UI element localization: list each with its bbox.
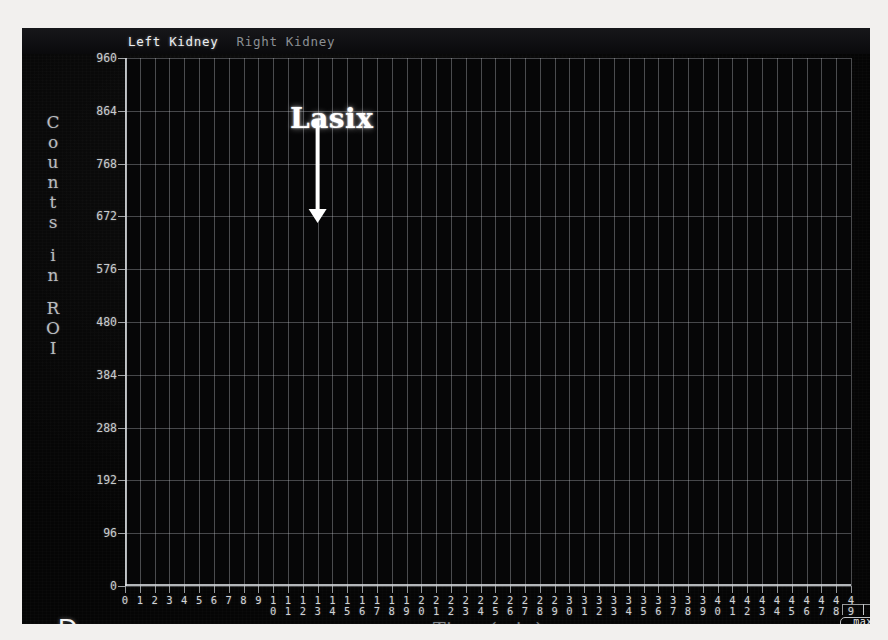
x-axis-tick-mark [629,586,630,593]
x-axis-tick-digit: 8 [389,606,395,617]
x-axis-tick-mark [288,586,289,593]
x-axis-tick-label: 43 [759,595,765,617]
x-axis-tick-digit: 5 [640,606,646,617]
x-axis-tick-label: 33 [611,595,617,617]
y-axis-tick-mark [118,480,125,481]
y-axis-tick-label: 576 [81,262,117,276]
x-axis-tick-digit: 1 [581,606,587,617]
y-axis-title-letter: O [46,312,60,332]
x-axis-tick-mark [318,586,319,593]
y-axis-title-letter: n [48,166,59,186]
x-axis-tick-label: 29 [551,595,557,617]
x-axis-tick-digit: 3 [314,606,320,617]
x-axis-tick-label: 16 [359,595,365,617]
x-axis-tick-digit: 7 [670,606,676,617]
gridline-vertical [851,58,852,586]
y-axis-title: CountsinROI [40,106,66,352]
y-axis-tick-mark [118,586,125,587]
x-axis-tick-label: 9 [255,595,261,606]
x-axis-tick-digit: 1 [433,606,439,617]
y-axis-tick-label: 864 [81,104,117,118]
y-axis-title-letter: R [47,292,60,312]
x-axis-tick-mark [569,586,570,593]
x-axis-tick-mark [258,586,259,593]
x-axis-tick-digit: 1 [285,606,291,617]
x-axis-tick-mark [732,586,733,593]
x-axis-tick-label: 5 [196,595,202,606]
x-axis-title: Time (min) [125,618,851,624]
x-axis-tick-label: 35 [640,595,646,617]
x-axis-tick-label: 30 [566,595,572,617]
y-axis-tick-mark [118,375,125,376]
x-axis-tick-digit: 4 [329,606,335,617]
x-axis-tick-label: 34 [626,595,632,617]
x-axis-tick-digit: 2 [744,606,750,617]
x-axis-tick-mark [451,586,452,593]
arrow-head [309,209,327,223]
x-axis-tick-mark [584,586,585,593]
y-axis-tick-label: 192 [81,473,117,487]
x-axis-tick-digit: 4 [774,606,780,617]
y-axis-tick-mark [118,58,125,59]
x-axis-tick-mark [599,586,600,593]
x-axis-tick-digit: 8 [685,606,691,617]
x-axis-tick-digit: 6 [359,606,365,617]
x-axis-tick-label: 6 [211,595,217,606]
x-axis-tick-label: 44 [774,595,780,617]
x-axis-tick-digit: 6 [507,606,513,617]
x-axis-tick-mark [792,586,793,593]
x-axis-tick-label: 36 [655,595,661,617]
y-axis-title-letter: i [50,239,55,259]
y-axis-tick-label: 672 [81,209,117,223]
x-axis-tick-digit: 4 [477,606,483,617]
x-axis-tick-digit: 3 [611,606,617,617]
x-axis-tick-mark [140,586,141,593]
y-axis-tick-label: 384 [81,368,117,382]
x-axis-tick-mark [362,586,363,593]
x-axis-tick-label: 20 [418,595,424,617]
max-bracket-right [863,604,870,615]
y-axis-title-letter: s [49,206,58,226]
x-axis-tick-label: 4 [181,595,187,606]
x-axis-tick-label: 39 [700,595,706,617]
x-axis-tick-mark [273,586,274,593]
y-axis-title-letter: u [48,146,59,166]
y-axis-tick-mark [118,533,125,534]
x-axis-tick-label: 31 [581,595,587,617]
x-axis-tick-digit: 5 [492,606,498,617]
x-axis-tick-label: 17 [374,595,380,617]
x-axis-tick-digit: 7 [522,606,528,617]
x-axis-tick-digit: 0 [418,606,424,617]
x-axis-tick-digit: 3 [759,606,765,617]
x-axis-tick-label: 37 [670,595,676,617]
x-axis-tick-digit: 9 [700,606,706,617]
x-axis-tick-digit: 9 [403,606,409,617]
x-axis-tick-label: 23 [463,595,469,617]
x-axis-tick-mark [495,586,496,593]
x-axis-tick-mark [229,586,230,593]
x-axis-tick-mark [421,586,422,593]
x-axis-tick-label: 14 [329,595,335,617]
y-axis-title-letter: t [50,186,57,206]
x-axis-tick-mark [155,586,156,593]
x-axis-tick-label: 47 [818,595,824,617]
y-axis-tick-label: 480 [81,315,117,329]
x-axis-tick-mark [762,586,763,593]
y-axis-tick-mark [118,216,125,217]
y-axis-tick-label: 0 [81,579,117,593]
x-axis-tick-digit: 8 [833,606,839,617]
x-axis-tick-mark [184,586,185,593]
x-axis-tick-label: 41 [729,595,735,617]
y-axis-tick-label: 960 [81,51,117,65]
x-axis-tick-label: 15 [344,595,350,617]
x-axis-tick-mark [303,586,304,593]
x-axis-tick-label: 40 [714,595,720,617]
x-axis-tick-mark [807,586,808,593]
x-axis-tick-mark [199,586,200,593]
renogram-scan-image: Left Kidney Right Kidney CountsinROI 096… [22,28,870,624]
x-axis-tick-mark [244,586,245,593]
x-axis-tick-mark [658,586,659,593]
x-axis-tick-mark [169,586,170,593]
plot-area [125,58,851,586]
y-axis-title-letter: o [48,126,58,146]
